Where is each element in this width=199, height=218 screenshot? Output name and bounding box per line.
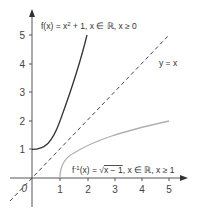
function-graph: 1 2 3 4 5 1 2 3 4 5 0 f(x) = x2 + 1, x ∈… (0, 0, 199, 218)
y-axis-arrow-icon (29, 9, 35, 17)
x-tick-label: 1 (57, 184, 63, 195)
f-label: f(x) = x2 + 1, x ∈ ℝ, x ≥ 0 (41, 21, 137, 31)
x-axis-arrow-icon (180, 175, 188, 181)
x-tick-label: 3 (112, 184, 118, 195)
identity-label: y = x (159, 58, 178, 68)
y-tick-label: 4 (19, 59, 25, 70)
x-tick-labels: 1 2 3 4 5 (57, 184, 172, 195)
y-tick-label: 3 (19, 87, 25, 98)
axes (10, 14, 183, 207)
y-tick-label: 5 (19, 30, 25, 41)
y-tick-labels: 1 2 3 4 5 (19, 30, 25, 155)
y-tick-label: 2 (19, 116, 25, 127)
y-tick-label: 1 (19, 144, 25, 155)
identity-line (10, 35, 169, 201)
x-tick-label: 5 (166, 184, 172, 195)
x-tick-label: 2 (85, 184, 91, 195)
f-curve (32, 35, 87, 149)
x-tick-label: 4 (139, 184, 145, 195)
f-inverse-label: f-1(x) = √x − 1, x ∈ ℝ, x ≥ 1 (72, 165, 175, 175)
